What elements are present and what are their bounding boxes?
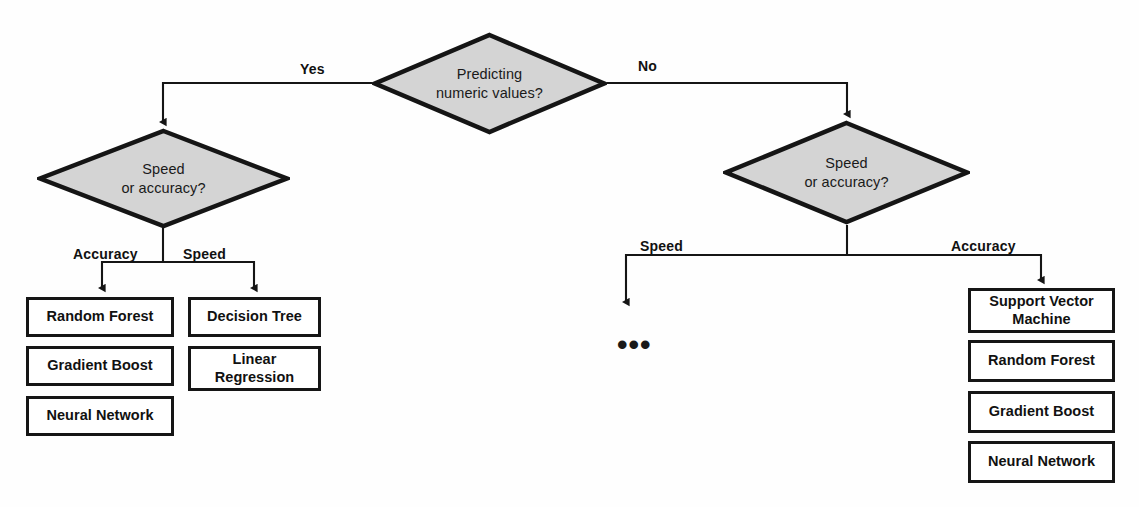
edge-label-right-speed: Speed — [640, 238, 683, 254]
decision-label-line2: or accuracy? — [121, 179, 205, 198]
algorithm-box-support-vector-machine[interactable]: Support Vector Machine — [968, 288, 1115, 333]
decision-label-line2: or accuracy? — [804, 173, 888, 192]
decision-label-line1: Speed — [804, 154, 888, 173]
algorithm-box-label: Random Forest — [47, 308, 154, 325]
algorithm-box-random-forest-clf[interactable]: Random Forest — [968, 340, 1115, 382]
decision-label: Speed or accuracy? — [121, 160, 205, 197]
algorithm-box-label: Neural Network — [988, 453, 1095, 470]
edge-label-left-accuracy: Accuracy — [73, 246, 138, 262]
algorithm-box-random-forest[interactable]: Random Forest — [26, 297, 174, 337]
truncated-branch-ellipsis: ••• — [617, 337, 652, 352]
algorithm-box-decision-tree[interactable]: Decision Tree — [188, 297, 321, 337]
decision-left-speed-or-accuracy[interactable]: Speed or accuracy? — [37, 128, 290, 229]
algorithm-box-label: Decision Tree — [207, 308, 302, 325]
decision-predicting-numeric-values[interactable]: Predicting numeric values? — [372, 32, 607, 135]
algorithm-box-label: Support Vector Machine — [989, 293, 1094, 327]
edge-label-yes: Yes — [300, 61, 325, 77]
algorithm-box-gradient-boost[interactable]: Gradient Boost — [26, 346, 174, 386]
algorithm-box-label: Linear Regression — [215, 351, 294, 385]
edge-label-no: No — [638, 58, 657, 74]
decision-right-speed-or-accuracy[interactable]: Speed or accuracy? — [723, 120, 970, 225]
algorithm-box-gradient-boost-clf[interactable]: Gradient Boost — [968, 391, 1115, 433]
algorithm-box-linear-regression[interactable]: Linear Regression — [188, 346, 321, 391]
flowchart-canvas: Predicting numeric values? Speed or accu… — [0, 0, 1139, 507]
decision-label-line1: Speed — [121, 160, 205, 179]
algorithm-box-label: Gradient Boost — [989, 403, 1094, 420]
decision-label-line2: numeric values? — [436, 84, 543, 103]
algorithm-box-label: Random Forest — [988, 352, 1095, 369]
decision-label: Predicting numeric values? — [436, 65, 543, 102]
edge-label-left-speed: Speed — [183, 246, 226, 262]
decision-label: Speed or accuracy? — [804, 154, 888, 191]
algorithm-box-label: Gradient Boost — [47, 357, 152, 374]
algorithm-box-label: Neural Network — [46, 407, 153, 424]
algorithm-box-neural-network[interactable]: Neural Network — [26, 396, 174, 436]
algorithm-box-neural-network-clf[interactable]: Neural Network — [968, 441, 1115, 483]
decision-label-line1: Predicting — [436, 65, 543, 84]
edge-label-right-accuracy: Accuracy — [951, 238, 1016, 254]
